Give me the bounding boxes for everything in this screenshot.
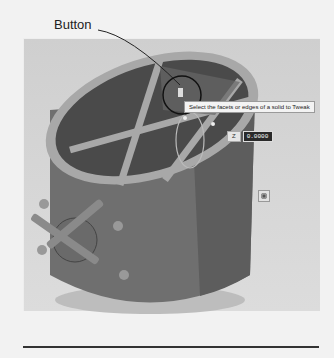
grip-point[interactable]: [211, 122, 215, 126]
model-scene: [0, 0, 334, 358]
tweak-button-icon[interactable]: [178, 88, 183, 97]
view-gizmo-icon[interactable]: [258, 190, 270, 202]
dimension-label: Z: [227, 131, 241, 142]
tooltip: Select the facets or edges of a solid to…: [184, 101, 315, 113]
divider: [23, 346, 319, 348]
dimension-input[interactable]: 0.0000: [243, 131, 273, 142]
grip-point[interactable]: [183, 116, 187, 120]
dynamic-input[interactable]: Z 0.0000: [227, 131, 273, 142]
